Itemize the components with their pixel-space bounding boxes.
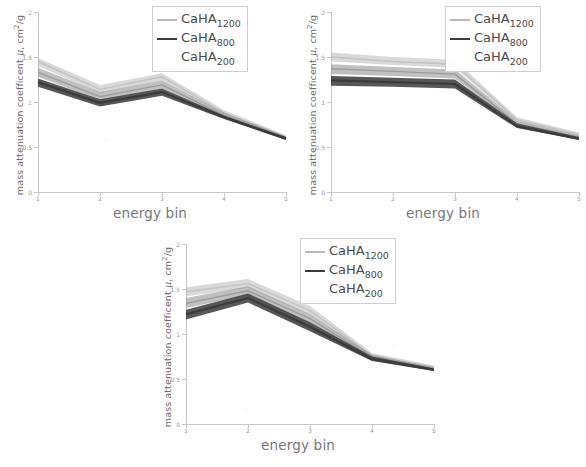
legend-item-caha1200: CaHA1200	[157, 10, 241, 29]
legend-item-caha200: CaHA200	[450, 48, 534, 67]
y-axis-tick	[327, 57, 331, 58]
y-axis-label-prefix: mass attenuation coefficent	[307, 56, 318, 195]
legend-swatch-caha200	[450, 57, 470, 59]
y-axis-label-2: mass attenuation coefficent μ, cm2/g	[306, 12, 318, 198]
legend-swatch-caha800	[157, 38, 177, 40]
y-axis-tick	[34, 12, 38, 13]
legend-label-caha1200: CaHA1200	[329, 243, 389, 261]
legend-swatch-caha1200	[450, 19, 470, 21]
x-axis-label-2: energy bin	[333, 205, 553, 221]
y-axis-tick	[34, 147, 38, 148]
y-axis-tick	[182, 334, 186, 335]
legend-item-caha1200: CaHA1200	[450, 10, 534, 29]
y-axis-tick-label: 1	[176, 331, 180, 338]
legend-swatch-caha200	[157, 57, 177, 59]
y-axis-tick-label: 1	[28, 99, 32, 106]
y-axis-tick-label: 2	[28, 9, 32, 16]
x-axis-tick-label: 3	[453, 195, 457, 202]
legend-label-caha1200: CaHA1200	[474, 11, 534, 29]
x-axis-tick-label: 5	[577, 195, 581, 202]
y-axis-tick	[182, 289, 186, 290]
x-axis-tick-label: 2	[98, 195, 102, 202]
x-axis-tick-label: 1	[184, 427, 188, 434]
legend-label-caha800: CaHA800	[181, 30, 235, 48]
y-axis-tick	[34, 57, 38, 58]
y-axis-tick	[327, 147, 331, 148]
y-axis-label-unit-post: /g	[14, 15, 25, 24]
legend-3: CaHA1200 CaHA800 CaHA200	[300, 238, 396, 304]
chart-panel-3: mass attenuation coefficent μ, cm2/g 00.…	[148, 232, 441, 467]
y-axis-label-unit-pre: , cm	[307, 29, 318, 50]
legend-item-caha1200: CaHA1200	[305, 242, 389, 261]
y-axis-tick-label: 0.5	[22, 144, 32, 151]
legend-item-caha200: CaHA200	[157, 48, 241, 67]
legend-label-caha200: CaHA200	[181, 49, 235, 67]
y-axis-tick	[182, 244, 186, 245]
y-axis-label-prefix: mass attenuation coefficent	[14, 56, 25, 195]
chart-panel-1: mass attenuation coefficent μ, cm2/g 00.…	[0, 0, 293, 235]
y-axis-tick-label: 0.5	[315, 144, 325, 151]
legend-swatch-caha200	[305, 289, 325, 291]
figure-root: { "figure": { "panel_count": 3, "series_…	[0, 0, 586, 467]
y-axis-tick	[327, 102, 331, 103]
y-axis-tick-label: 2	[176, 241, 180, 248]
y-axis-label-unit-sup: 2	[306, 24, 314, 29]
legend-item-caha800: CaHA800	[450, 29, 534, 48]
y-axis-tick	[327, 12, 331, 13]
y-axis-label-prefix: mass attenuation coefficent	[162, 288, 173, 427]
legend-label-caha800: CaHA800	[474, 30, 528, 48]
y-axis-label-unit-sup: 2	[13, 24, 21, 29]
legend-2: CaHA1200 CaHA800 CaHA200	[445, 6, 541, 72]
legend-item-caha200: CaHA200	[305, 280, 389, 299]
legend-swatch-caha800	[450, 38, 470, 40]
x-axis-tick-label: 4	[222, 195, 226, 202]
x-axis-tick-label: 2	[246, 427, 250, 434]
x-axis-tick-label: 1	[36, 195, 40, 202]
legend-swatch-caha1200	[305, 251, 325, 253]
y-axis-label-1: mass attenuation coefficent μ, cm2/g	[13, 12, 25, 198]
legend-item-caha800: CaHA800	[305, 261, 389, 280]
y-axis-tick-label: 0.5	[170, 376, 180, 383]
y-axis-tick-label: 0	[28, 189, 32, 196]
x-axis-tick-label: 3	[308, 427, 312, 434]
y-axis-tick-label: 0	[176, 421, 180, 428]
y-axis-tick-label: 1.5	[170, 286, 180, 293]
legend-label-caha200: CaHA200	[329, 281, 383, 299]
legend-label-caha800: CaHA800	[329, 262, 383, 280]
x-axis-tick-label: 2	[391, 195, 395, 202]
y-axis-label-unit-pre: , cm	[162, 261, 173, 282]
series-band-caha200	[331, 64, 579, 138]
x-axis-tick-label: 5	[284, 195, 288, 202]
y-axis-tick	[34, 102, 38, 103]
y-axis-tick-label: 0	[321, 189, 325, 196]
y-axis-tick	[182, 379, 186, 380]
x-axis-tick-label: 4	[515, 195, 519, 202]
y-axis-tick-label: 1	[321, 99, 325, 106]
x-axis-tick-label: 4	[370, 427, 374, 434]
y-axis-tick-label: 2	[321, 9, 325, 16]
legend-1: CaHA1200 CaHA800 CaHA200	[152, 6, 248, 72]
x-axis-tick-label: 3	[160, 195, 164, 202]
x-axis-label-1: energy bin	[40, 205, 260, 221]
legend-swatch-caha800	[305, 270, 325, 272]
y-axis-tick-label: 1.5	[22, 54, 32, 61]
y-axis-label-unit-post: /g	[162, 247, 173, 256]
x-axis-tick-label: 5	[432, 427, 436, 434]
series-band-caha800	[331, 76, 579, 140]
y-axis-label-unit-pre: , cm	[14, 29, 25, 50]
x-axis-tick-label: 1	[329, 195, 333, 202]
chart-panel-2: mass attenuation coefficent μ, cm2/g 00.…	[293, 0, 586, 235]
y-axis-label-unit-sup: 2	[161, 256, 169, 261]
legend-swatch-caha1200	[157, 19, 177, 21]
legend-label-caha1200: CaHA1200	[181, 11, 241, 29]
y-axis-label-3: mass attenuation coefficent μ, cm2/g	[161, 244, 173, 430]
legend-label-caha200: CaHA200	[474, 49, 528, 67]
legend-item-caha800: CaHA800	[157, 29, 241, 48]
y-axis-label-unit-post: /g	[307, 15, 318, 24]
y-axis-tick-label: 1.5	[315, 54, 325, 61]
x-axis-label-3: energy bin	[188, 437, 408, 453]
